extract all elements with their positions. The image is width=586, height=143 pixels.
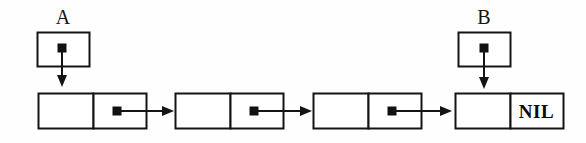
list-node-3: [314, 94, 453, 129]
pointer-label-b: B: [458, 7, 510, 27]
pointer-variable-a: [38, 33, 90, 88]
node-1-data-cell: [39, 94, 94, 129]
pointer-variable-b: [459, 33, 511, 90]
node-2-next-arrow-head: [300, 106, 312, 116]
nil-terminator-label: NIL: [510, 102, 563, 121]
node-4-data-cell: [456, 94, 511, 129]
node-3-next-arrow-head: [440, 106, 452, 116]
node-2-data-cell: [176, 94, 231, 129]
node-3-data-cell: [314, 94, 369, 129]
linked-list-diagram: A B NIL: [0, 0, 586, 143]
pointer-arrow-b-head: [479, 77, 489, 89]
pointer-arrow-a-head: [57, 75, 67, 87]
node-1-next-arrow-head: [162, 106, 174, 116]
list-node-1: [39, 94, 175, 129]
list-node-2: [176, 94, 313, 129]
pointer-label-a: A: [37, 7, 89, 27]
